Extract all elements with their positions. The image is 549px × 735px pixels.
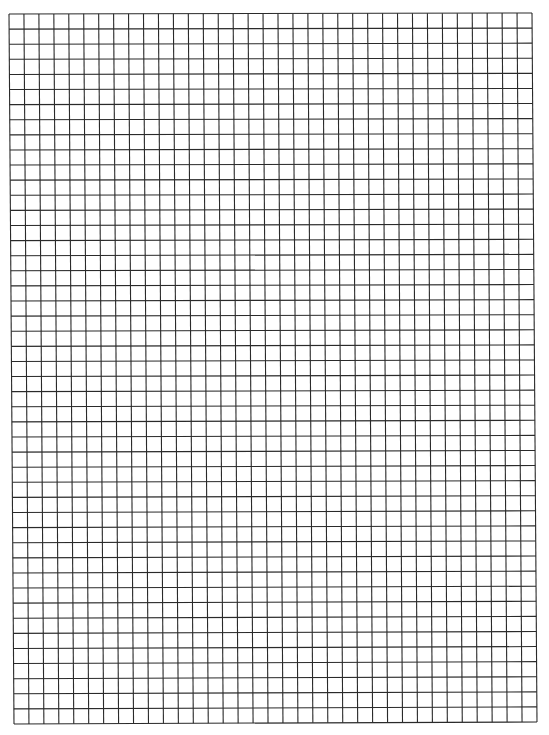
grid-horizontal-line xyxy=(9,13,532,14)
grid-horizontal-line xyxy=(12,405,535,407)
grid-horizontal-line xyxy=(10,119,533,120)
grid-horizontal-line xyxy=(9,73,532,74)
grid-horizontal-line xyxy=(11,254,534,255)
grid-vertical-line xyxy=(278,13,283,722)
grid-vertical-line xyxy=(353,13,358,722)
grid-vertical-line xyxy=(442,13,447,722)
grid-horizontal-line xyxy=(12,420,535,422)
grid-horizontal-line xyxy=(13,647,536,649)
grid-horizontal-line xyxy=(11,300,534,301)
grid-horizontal-line xyxy=(13,571,536,573)
grid-horizontal-line xyxy=(11,345,534,346)
grid-vertical-line xyxy=(383,13,388,722)
grid-horizontal-line xyxy=(13,616,536,618)
grid-horizontal-line xyxy=(13,586,536,588)
grid-horizontal-line xyxy=(9,43,532,44)
grid-vertical-line xyxy=(39,14,44,724)
grid-vertical-line xyxy=(158,14,163,724)
grid-vertical-line xyxy=(427,13,432,722)
grid-horizontal-line xyxy=(11,269,534,270)
grid-vertical-line xyxy=(143,14,148,724)
grid-vertical-line xyxy=(188,14,193,724)
grid-horizontal-line xyxy=(10,104,533,105)
grid-horizontal-line xyxy=(9,58,532,59)
grid-horizontal-line xyxy=(14,692,537,694)
grid-lines xyxy=(0,0,549,735)
grid-vertical-line xyxy=(233,14,238,724)
grid-vertical-line xyxy=(398,13,403,722)
grid-horizontal-line xyxy=(13,631,536,633)
grid-vertical-line xyxy=(457,13,462,722)
grid-vertical-line xyxy=(24,14,29,724)
grid-horizontal-line xyxy=(13,541,536,543)
grid-horizontal-line xyxy=(10,134,533,135)
grid-horizontal-line xyxy=(9,28,532,29)
grid-vertical-line xyxy=(263,14,268,724)
grid-vertical-line xyxy=(248,14,253,724)
grid-horizontal-line xyxy=(11,239,534,240)
grid-horizontal-line xyxy=(13,556,536,558)
grid-horizontal-line xyxy=(13,511,536,513)
grid-vertical-line xyxy=(532,13,537,722)
grid-vertical-line xyxy=(99,14,104,724)
grid-horizontal-line xyxy=(11,315,534,316)
grid-horizontal-line xyxy=(13,526,536,528)
grid-vertical-line xyxy=(218,14,223,724)
grid-horizontal-line xyxy=(12,435,535,437)
grid-horizontal-line xyxy=(12,496,535,498)
grid-horizontal-line xyxy=(10,164,533,165)
grid-vertical-line xyxy=(173,14,178,724)
grid-horizontal-line xyxy=(11,285,534,286)
grid-horizontal-line xyxy=(10,194,533,195)
grid-vertical-line xyxy=(308,13,313,722)
grid-horizontal-line xyxy=(10,179,533,180)
grid-horizontal-line xyxy=(11,330,534,331)
graph-paper-sheet xyxy=(0,0,549,735)
grid-vertical-line xyxy=(84,14,89,724)
grid-vertical-line xyxy=(293,13,298,722)
grid-vertical-line xyxy=(323,13,328,722)
grid-vertical-line xyxy=(114,14,119,724)
grid-vertical-line xyxy=(487,13,492,722)
grid-vertical-line xyxy=(9,14,14,724)
grid-horizontal-line xyxy=(14,707,537,709)
grid-vertical-line xyxy=(129,14,134,724)
grid-vertical-line xyxy=(338,13,343,722)
grid-horizontal-line xyxy=(13,601,536,603)
grid-horizontal-line xyxy=(12,481,535,483)
grid-vertical-line xyxy=(412,13,417,722)
grid-vertical-line xyxy=(502,13,507,722)
grid-horizontal-line xyxy=(12,375,535,377)
grid-vertical-line xyxy=(517,13,522,722)
grid-vertical-line xyxy=(54,14,59,724)
grid-horizontal-line xyxy=(14,722,537,724)
grid-horizontal-line xyxy=(11,360,534,361)
grid-horizontal-line xyxy=(12,450,535,452)
grid-horizontal-line xyxy=(10,209,533,210)
grid-vertical-line xyxy=(472,13,477,722)
grid-vertical-line xyxy=(69,14,74,724)
grid-horizontal-line xyxy=(10,224,533,225)
grid-vertical-line xyxy=(368,13,373,722)
grid-vertical-line xyxy=(203,14,208,724)
grid-horizontal-line xyxy=(12,390,535,392)
grid-horizontal-line xyxy=(12,466,535,468)
grid-horizontal-line xyxy=(14,677,537,679)
grid-horizontal-line xyxy=(14,662,537,664)
grid-horizontal-line xyxy=(10,88,533,89)
grid-horizontal-line xyxy=(10,149,533,150)
